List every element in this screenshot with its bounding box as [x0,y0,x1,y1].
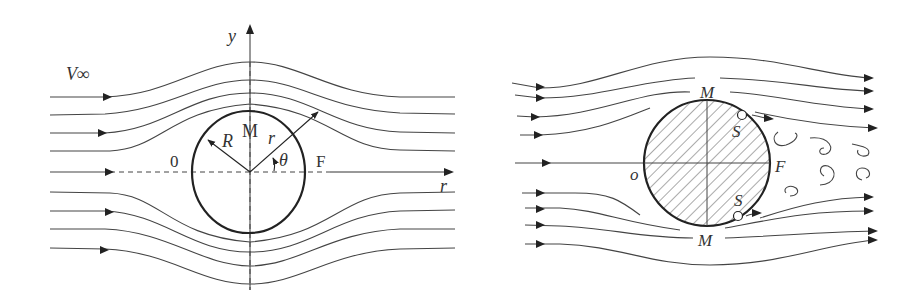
arrow-icon [864,105,874,113]
right-panel-viscous-flow: M M o F S S [512,57,878,265]
arrow-icon [864,193,874,201]
front-point-label: 0 [170,152,179,171]
wake-vortices [774,132,869,196]
arrow-icon [868,124,878,132]
top-point-label: M [242,121,258,141]
eddy [856,168,869,180]
arrow-icon [536,205,545,213]
separation-bottom-label: S [734,191,743,210]
lower-streamlines [50,192,455,284]
arrow-icon [531,113,540,121]
arrow-icon [752,209,762,217]
rear-point-label: F [774,157,786,176]
angle-arc [273,158,275,171]
arrow-icon [536,221,545,229]
arrow-icon [868,236,878,244]
bottom-point-label: M [697,231,713,250]
arrow-icon [100,246,109,254]
separation-point-top [738,111,747,120]
streamline [512,57,870,88]
r-axis-label: r [440,176,448,196]
separation-point-bottom [734,212,743,221]
streamline [725,211,870,228]
radial-coordinate-label: r [268,128,276,148]
separation-top-label: S [732,122,741,141]
eddy [820,166,834,185]
eddy [785,186,798,196]
streamline [50,229,455,266]
arrow-icon [534,131,543,139]
arrow-icon [98,129,107,137]
arrow-icon [105,168,114,176]
arrow-icon [536,240,545,248]
freestream-velocity-label: V∞ [66,64,90,84]
streamline [522,193,640,215]
eddy [852,144,869,156]
eddy [810,138,831,155]
outlet-arrows [864,74,878,244]
y-axis-label: y [226,26,236,46]
arrow-icon [103,93,112,101]
eddy [774,132,797,146]
top-point-label: M [699,83,715,102]
arrow-icon [105,208,114,216]
streamline [50,192,455,242]
arrow-icon [864,207,874,215]
arrow-icon [864,74,874,82]
arrow-icon [536,189,545,197]
radius-label: R [221,131,233,151]
streamline [50,210,455,252]
streamline [515,78,870,98]
y-axis-arrow-icon [246,24,254,34]
angle-label: θ [279,150,288,170]
arrow-icon [868,227,878,235]
cylinder-flow-diagram: V∞ y r 0 M F R r θ [0,0,922,298]
arrow-icon [536,94,545,102]
arrow-icon [542,159,551,167]
inlet-arrows [531,83,551,248]
left-panel-ideal-flow: V∞ y r 0 M F R r θ [50,24,455,290]
rear-point-label: F [316,152,325,171]
front-point-label: o [630,165,639,184]
arrow-icon [536,83,545,91]
r-axis-arrow-icon [444,168,454,176]
arrow-icon [864,87,874,95]
